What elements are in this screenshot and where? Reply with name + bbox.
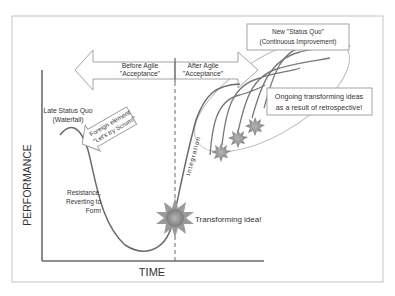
- late-status-quo-label-line1: Late Status Quo: [43, 107, 92, 115]
- y-axis-label: PERFORMANCE: [21, 144, 33, 226]
- late-status-quo-label-line2: (Waterfall): [52, 116, 83, 124]
- ongoing-ideas-label-line2: as a result of retrospective!: [276, 103, 362, 112]
- after-agile-label-line2: "Acceptance": [183, 70, 224, 78]
- ongoing-ideas-label-line1: Ongoing transforming ideas: [275, 92, 364, 101]
- new-status-quo-label-line1: New "Status Quo": [272, 28, 325, 36]
- satir-change-curve-diagram: PERFORMANCE TIME Before Agile "Acceptanc…: [0, 0, 395, 296]
- before-agile-label-line1: Before Agile: [122, 62, 159, 70]
- resistance-label-line3: Form: [86, 207, 101, 214]
- new-status-quo-label-line2: (Continuous Improvement): [260, 38, 337, 46]
- resistance-label-line2: Reverting to: [66, 198, 101, 206]
- transforming-idea-label: Transforming idea!: [195, 215, 261, 224]
- after-agile-label-line1: After Agile: [188, 62, 219, 70]
- before-agile-label-line2: "Acceptance": [120, 70, 161, 78]
- resistance-label-line1: Resistance,: [67, 189, 101, 196]
- x-axis-label: TIME: [139, 266, 165, 278]
